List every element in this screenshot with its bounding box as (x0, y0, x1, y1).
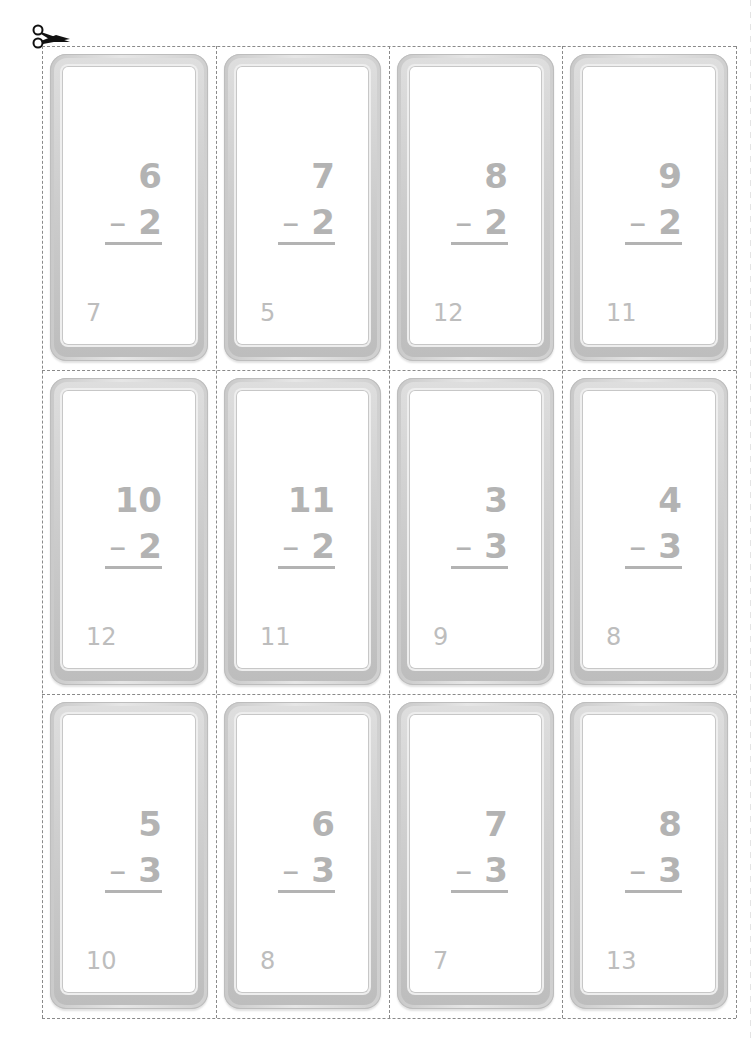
subtrahend-row: –2 (278, 526, 335, 569)
flash-card: 9–211 (570, 54, 728, 361)
subtrahend-row: –3 (105, 850, 162, 893)
subtrahend: 2 (658, 202, 682, 242)
subtraction-problem: 7–3 (451, 804, 508, 893)
card-face: 3–39 (409, 390, 542, 669)
subtraction-problem: 4–3 (625, 480, 682, 569)
card-face: 8–313 (582, 714, 716, 993)
card-face: 9–211 (582, 66, 716, 345)
minus-sign: – (282, 202, 299, 242)
flash-card: 6–38 (224, 702, 381, 1009)
subtrahend-row: –3 (625, 526, 682, 569)
corner-number: 8 (260, 947, 275, 975)
minuend: 8 (625, 804, 682, 844)
minuend: 4 (625, 480, 682, 520)
subtrahend: 3 (658, 850, 682, 890)
subtrahend: 2 (311, 526, 335, 566)
minus-sign: – (455, 202, 472, 242)
cut-line-vertical (736, 46, 737, 1018)
card-face: 11–211 (236, 390, 369, 669)
subtrahend-row: –3 (451, 850, 508, 893)
flash-card-cell: 8–212 (389, 46, 562, 370)
subtrahend-row: –2 (105, 526, 162, 569)
flash-card: 8–313 (570, 702, 728, 1009)
corner-number: 10 (86, 947, 117, 975)
minuend: 8 (451, 156, 508, 196)
minuend: 6 (278, 804, 335, 844)
subtrahend: 2 (138, 202, 162, 242)
corner-number: 12 (433, 299, 464, 327)
minuend: 6 (105, 156, 162, 196)
card-face: 5–310 (62, 714, 196, 993)
flash-card-cell: 4–38 (562, 370, 736, 694)
flash-card-cell: 6–38 (216, 694, 389, 1018)
subtraction-problem: 8–3 (625, 804, 682, 893)
subtraction-problem: 5–3 (105, 804, 162, 893)
minuend: 3 (451, 480, 508, 520)
minuend: 5 (105, 804, 162, 844)
card-face: 8–212 (409, 66, 542, 345)
corner-number: 9 (433, 623, 448, 651)
minus-sign: – (455, 526, 472, 566)
corner-number: 7 (86, 299, 101, 327)
subtrahend: 2 (138, 526, 162, 566)
subtraction-problem: 6–3 (278, 804, 335, 893)
card-face: 7–25 (236, 66, 369, 345)
corner-number: 12 (86, 623, 117, 651)
card-face: 7–37 (409, 714, 542, 993)
corner-number: 7 (433, 947, 448, 975)
minus-sign: – (109, 526, 126, 566)
subtraction-problem: 6–2 (105, 156, 162, 245)
corner-number: 13 (606, 947, 637, 975)
minus-sign: – (455, 850, 472, 890)
flash-card-cell: 7–37 (389, 694, 562, 1018)
corner-number: 11 (260, 623, 291, 651)
flash-card: 7–37 (397, 702, 554, 1009)
page-edge (750, 0, 751, 1043)
flash-card: 3–39 (397, 378, 554, 685)
subtrahend-row: –2 (278, 202, 335, 245)
subtrahend-row: –3 (625, 850, 682, 893)
flash-card: 10–212 (50, 378, 208, 685)
minus-sign: – (629, 526, 646, 566)
card-face: 4–38 (582, 390, 716, 669)
corner-number: 11 (606, 299, 637, 327)
minuend: 7 (451, 804, 508, 844)
flash-card-cell: 11–211 (216, 370, 389, 694)
card-face: 6–38 (236, 714, 369, 993)
minus-sign: – (109, 850, 126, 890)
flash-card-cell: 5–310 (42, 694, 216, 1018)
subtrahend: 2 (484, 202, 508, 242)
subtraction-problem: 10–2 (105, 480, 162, 569)
flash-card: 8–212 (397, 54, 554, 361)
minuend: 10 (105, 480, 162, 520)
flash-card-cell: 7–25 (216, 46, 389, 370)
subtrahend-row: –2 (625, 202, 682, 245)
flash-card-cell: 6–27 (42, 46, 216, 370)
minus-sign: – (282, 526, 299, 566)
flash-card-cell: 10–212 (42, 370, 216, 694)
card-face: 6–27 (62, 66, 196, 345)
flash-card-cell: 9–211 (562, 46, 736, 370)
subtraction-problem: 3–3 (451, 480, 508, 569)
cut-line-horizontal (42, 1018, 736, 1019)
subtrahend-row: –2 (105, 202, 162, 245)
card-face: 10–212 (62, 390, 196, 669)
flash-card: 11–211 (224, 378, 381, 685)
minuend: 7 (278, 156, 335, 196)
flash-card-cell: 3–39 (389, 370, 562, 694)
corner-number: 5 (260, 299, 275, 327)
minus-sign: – (282, 850, 299, 890)
subtrahend: 2 (311, 202, 335, 242)
minus-sign: – (629, 202, 646, 242)
flash-card: 5–310 (50, 702, 208, 1009)
corner-number: 8 (606, 623, 621, 651)
flash-card: 6–27 (50, 54, 208, 361)
minuend: 9 (625, 156, 682, 196)
subtrahend: 3 (658, 526, 682, 566)
minus-sign: – (629, 850, 646, 890)
subtrahend-row: –2 (451, 202, 508, 245)
flash-card: 7–25 (224, 54, 381, 361)
minuend: 11 (278, 480, 335, 520)
subtrahend: 3 (484, 526, 508, 566)
flash-card-cell: 8–313 (562, 694, 736, 1018)
